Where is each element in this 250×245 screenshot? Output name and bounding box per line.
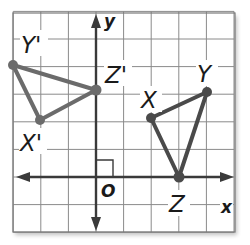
vertex-z: [174, 172, 185, 183]
label-z: Z: [168, 191, 186, 217]
coordinate-grid-diagram: y x O Y' Z' X' X Y Z: [0, 0, 250, 245]
vertex-y-prime: [8, 60, 18, 70]
vertex-x: [146, 113, 156, 123]
label-z-prime: Z': [104, 62, 127, 88]
y-axis-label: y: [104, 11, 116, 31]
label-y: Y: [197, 61, 213, 87]
label-x-prime: X': [19, 130, 42, 156]
vertex-x-prime: [35, 115, 45, 125]
label-y-prime: Y': [21, 32, 41, 58]
vertex-z-prime: [91, 85, 102, 96]
label-x: X: [140, 87, 158, 113]
x-axis-label: x: [220, 197, 233, 217]
vertex-y: [202, 87, 212, 97]
origin-label: O: [101, 181, 115, 201]
